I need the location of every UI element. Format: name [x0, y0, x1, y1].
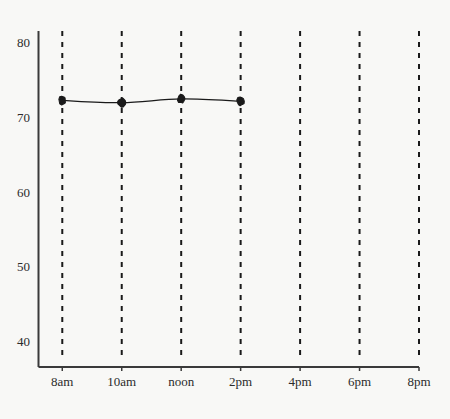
x-tick-label-noon: noon — [168, 375, 194, 388]
temperature-line-chart: 4050607080 8am10amnoon2pm4pm6pm8pm — [0, 0, 450, 419]
y-tick-label-50: 50 — [2, 260, 30, 273]
data-point-marker[interactable] — [59, 96, 65, 105]
y-tick-label-80: 80 — [2, 36, 30, 49]
x-tick-label-6pm: 6pm — [348, 375, 371, 388]
marker-glyph — [178, 94, 185, 103]
plot-area — [0, 0, 450, 419]
data-point-marker[interactable] — [178, 94, 185, 103]
x-tick-label-8pm: 8pm — [407, 375, 430, 388]
data-point-marker[interactable] — [237, 97, 244, 106]
marker-glyph — [237, 97, 244, 106]
x-tick-label-2pm: 2pm — [229, 375, 252, 388]
y-tick-label-40: 40 — [2, 334, 30, 347]
y-tick-label-60: 60 — [2, 185, 30, 198]
x-tick-label-4pm: 4pm — [289, 375, 312, 388]
plot-background — [0, 0, 450, 419]
marker-glyph — [59, 96, 65, 105]
x-tick-label-8am: 8am — [51, 375, 73, 388]
x-tick-label-10am: 10am — [107, 375, 136, 388]
y-tick-label-70: 70 — [2, 110, 30, 123]
